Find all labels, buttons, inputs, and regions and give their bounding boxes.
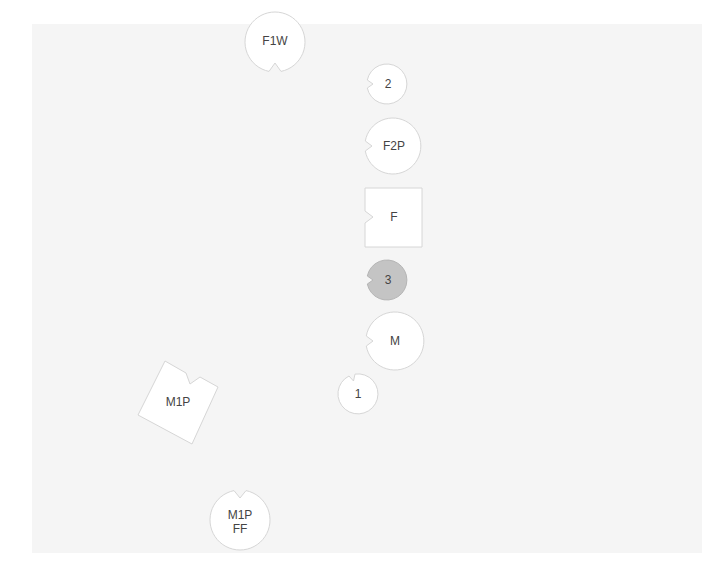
node-label: F bbox=[390, 210, 397, 224]
node-label: M1P bbox=[166, 395, 191, 409]
node-label: 3 bbox=[385, 273, 392, 287]
node-label-line2: FF bbox=[233, 522, 248, 536]
node-label: 2 bbox=[385, 77, 392, 91]
node-f2p[interactable]: F2P bbox=[365, 118, 421, 174]
pedigree-diagram: F1W 2 F2P F 3 M 1 M1P M1P FF bbox=[0, 0, 724, 582]
node-3[interactable]: 3 bbox=[367, 260, 407, 300]
node-label: 1 bbox=[355, 387, 362, 401]
node-f1w[interactable]: F1W bbox=[245, 12, 305, 71]
node-m1p-ff[interactable]: M1P FF bbox=[210, 491, 270, 550]
node-label: F2P bbox=[383, 139, 405, 153]
node-m1p[interactable]: M1P bbox=[138, 361, 218, 444]
node-1[interactable]: 1 bbox=[338, 374, 378, 414]
node-f[interactable]: F bbox=[365, 188, 422, 247]
node-label-line1: M1P bbox=[228, 508, 253, 522]
node-2[interactable]: 2 bbox=[367, 64, 407, 104]
node-label: M bbox=[390, 334, 400, 348]
node-m[interactable]: M bbox=[366, 312, 424, 370]
node-label: F1W bbox=[262, 34, 288, 48]
